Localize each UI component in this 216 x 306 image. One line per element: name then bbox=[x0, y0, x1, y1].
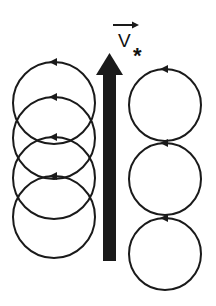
velocity-subscript: * bbox=[133, 43, 142, 68]
rotation-arrow-icon bbox=[49, 93, 57, 101]
vortex-circle bbox=[13, 62, 95, 144]
vector-arrowhead-icon bbox=[132, 22, 139, 29]
left-vortex-column bbox=[13, 58, 95, 258]
rotation-arrow-icon bbox=[160, 65, 168, 73]
right-vortex-2 bbox=[129, 139, 201, 215]
vortex-circle bbox=[129, 143, 201, 215]
right-vortex-column bbox=[129, 65, 201, 290]
rotation-arrow-icon bbox=[49, 58, 57, 66]
rotation-arrow-icon bbox=[49, 133, 57, 141]
vortex-circle bbox=[129, 69, 201, 141]
arrow-shaft bbox=[103, 74, 116, 261]
right-vortex-3 bbox=[129, 214, 201, 290]
velocity-label: V * bbox=[113, 22, 142, 69]
arrow-head-icon bbox=[96, 53, 123, 75]
left-vortex-1 bbox=[13, 58, 95, 144]
vortex-circle bbox=[129, 218, 201, 290]
left-vortex-4 bbox=[13, 172, 95, 258]
vortex-circle bbox=[13, 176, 95, 258]
upward-velocity-arrow-icon bbox=[96, 53, 123, 261]
right-vortex-1 bbox=[129, 65, 201, 141]
velocity-symbol: V bbox=[118, 30, 131, 51]
vortex-diagram: V * bbox=[0, 0, 216, 306]
